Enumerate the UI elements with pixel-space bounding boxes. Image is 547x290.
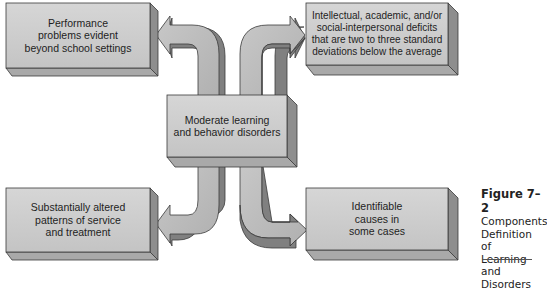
component-label-altered-patterns: Substantially altered patterns of servic… (6, 188, 150, 252)
arrow-to-top-right (240, 16, 305, 100)
arrow-to-bottom-right (240, 160, 307, 248)
arrow-to-top-left (156, 16, 225, 100)
figure-caption: Figure 7–2 Components Definition of Lear… (481, 187, 541, 290)
component-label-performance-problems: Performance problems evident beyond scho… (6, 3, 150, 68)
figure-caption-text: Components Definition of Learning and Di… (481, 215, 541, 290)
component-label-deficits: Intellectual, academic, and/or social-in… (306, 3, 448, 65)
figure-number: Figure 7–2 (481, 187, 541, 215)
caption-divider (482, 259, 532, 260)
arrow-to-bottom-left (156, 160, 225, 246)
component-label-identifiable-causes: Identifiable causes in some cases (306, 188, 448, 250)
center-label-moderate-disorders: Moderate learning and behavior disorders (167, 95, 287, 157)
